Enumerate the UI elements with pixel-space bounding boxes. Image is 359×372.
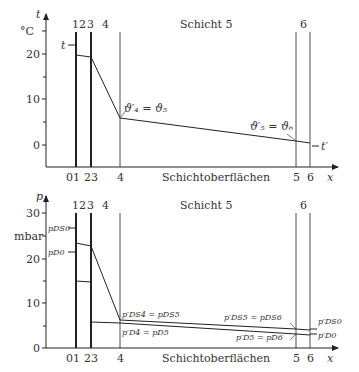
bottom-x-tick-4: 4 — [117, 352, 124, 365]
layer-num-4: 4 — [102, 18, 109, 31]
top-x-tick-23: 23 — [84, 171, 98, 184]
pD0-right-label: p′D0 — [318, 331, 336, 340]
top-y-tick-20: 20 — [26, 48, 40, 61]
top-x-axis-label: x — [327, 171, 334, 184]
bottom-y-tick-30: 30 — [26, 207, 40, 220]
top-x-caption: Schichtoberflächen — [162, 171, 270, 184]
b-layer-num-1: 1 — [72, 199, 79, 212]
bottom-y-tick-0: 0 — [33, 342, 40, 355]
layer-num-6: 6 — [300, 18, 307, 31]
pressure-chart — [42, 196, 338, 348]
partial-pressure-profile — [76, 281, 91, 282]
bottom-x-tick-01: 01 — [66, 352, 80, 365]
top-x-tick-5: 5 — [293, 171, 300, 184]
bottom-y-tick-20: 20 — [26, 253, 40, 266]
bottom-y-tick-10: 10 — [26, 297, 40, 310]
top-x-tick-6: 6 — [307, 171, 314, 184]
pDS0-left-label: pDS0 — [48, 224, 70, 233]
annotation-theta4: ϑ′₄ = ϑ₅ — [124, 102, 168, 115]
b-layer-num-4: 4 — [102, 199, 109, 212]
bottom-x-tick-5: 5 — [293, 352, 300, 365]
temperature-chart — [42, 14, 338, 167]
annotation-pDS4: p′DS4 = pDS5 — [122, 310, 180, 319]
layer-num-1: 1 — [72, 18, 79, 31]
annotation-pD4: p′D4 = pD5 — [122, 328, 169, 337]
annotation-theta5: ϑ′₅ = ϑ₆ — [250, 120, 294, 133]
inner-temp-label: t — [61, 39, 66, 52]
top-y-tick-0: 0 — [33, 139, 40, 152]
layer-num-2: 2 — [79, 18, 86, 31]
bottom-y-unit: mbar — [14, 230, 44, 243]
layer-num-3: 3 — [87, 18, 94, 31]
bottom-x-tick-6: 6 — [307, 352, 314, 365]
annotation-pDS5: p′DS5 = pDS6 — [224, 313, 282, 322]
bottom-y-axis-label: p — [36, 190, 43, 203]
top-layer-title: Schicht 5 — [180, 18, 232, 31]
top-x-tick-4: 4 — [117, 171, 124, 184]
top-x-tick-01: 01 — [66, 171, 80, 184]
bottom-x-tick-23: 23 — [84, 352, 98, 365]
b-layer-num-2: 2 — [79, 199, 86, 212]
b-layer-num-6: 6 — [300, 199, 307, 212]
pD0-left-label: pD0 — [48, 248, 65, 257]
b-layer-num-3: 3 — [87, 199, 94, 212]
top-y-tick-10: 10 — [26, 93, 40, 106]
bottom-x-caption: Schichtoberflächen — [162, 352, 270, 365]
bottom-x-axis-label: x — [327, 352, 334, 365]
bottom-layer-title: Schicht 5 — [180, 199, 232, 212]
outer-temp-label: t′ — [321, 140, 328, 153]
pDS0-right-label: p′DS0 — [318, 317, 342, 326]
top-y-axis-label: t — [36, 8, 41, 21]
top-y-unit: °C — [20, 25, 34, 38]
diagram-canvas: t °C 20 10 0 1 2 3 4 Schicht 5 6 t t′ ϑ′… — [0, 0, 359, 372]
annotation-pD5: p′D5 = pD6 — [236, 333, 283, 342]
